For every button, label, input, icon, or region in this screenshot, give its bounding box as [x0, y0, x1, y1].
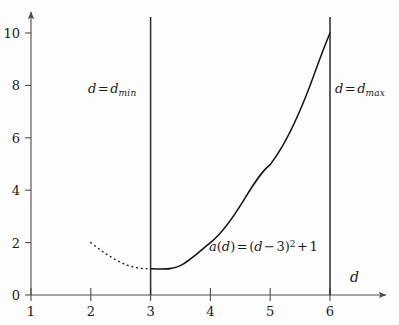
y-tick-label-0: 0 — [12, 289, 20, 302]
x-tick-label-4: 4 — [206, 305, 214, 318]
formula-expr-const: 3 — [276, 239, 284, 254]
x-tick-label-3: 3 — [146, 305, 154, 318]
y-tick-label-6: 6 — [12, 131, 20, 144]
formula-addend: 1 — [309, 239, 317, 254]
x-axis-name-label: d — [350, 270, 359, 284]
formula-expr-var: d — [254, 239, 262, 254]
y-tick-label-4: 4 — [12, 184, 20, 197]
d-min-equals: = — [96, 81, 110, 96]
d-max-equals: = — [343, 81, 357, 96]
x-tick-label-5: 5 — [266, 305, 274, 318]
y-tick-label-8: 8 — [12, 79, 20, 92]
x-tick-label-1: 1 — [27, 305, 35, 318]
annotation-d-min: d=dmin — [88, 82, 136, 98]
d-max-target-var: d — [357, 81, 365, 96]
formula-exponent: 2 — [290, 239, 296, 249]
d-max-subscript: max — [366, 88, 386, 98]
d-min-target-var: d — [110, 81, 118, 96]
function-plot-figure: 0 2 4 6 8 10 1 2 3 4 5 6 d d=dmin d=dmax… — [0, 0, 399, 325]
curve-dotted-branch — [91, 243, 151, 269]
plot-canvas — [0, 0, 399, 325]
x-tick-label-6: 6 — [326, 305, 334, 318]
curve-solid-branch — [151, 33, 330, 269]
annotation-function-formula: a(d)=(d−3)2+1 — [209, 240, 318, 253]
formula-func-name: a — [209, 239, 217, 254]
formula-equals: = — [235, 239, 249, 254]
d-min-subscript: min — [119, 88, 137, 98]
annotation-d-max: d=dmax — [335, 82, 385, 98]
y-tick-label-2: 2 — [12, 236, 20, 249]
formula-minus: − — [263, 239, 277, 254]
y-tick-label-10: 10 — [3, 27, 20, 40]
formula-arg: d — [222, 239, 230, 254]
x-tick-label-2: 2 — [87, 305, 95, 318]
y-axis-ticks — [25, 33, 31, 295]
formula-plus: + — [296, 239, 310, 254]
